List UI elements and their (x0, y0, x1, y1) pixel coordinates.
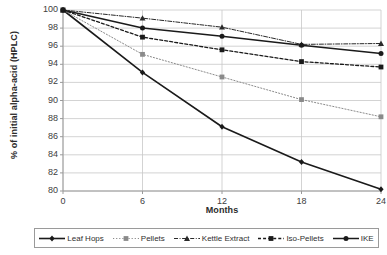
y-tick-label: 80 (32, 185, 58, 195)
x-tick-label: 0 (48, 196, 78, 206)
data-point (379, 65, 384, 70)
y-tick-label: 94 (32, 58, 58, 68)
x-axis-title: Months (63, 205, 381, 215)
legend-marker-triangle-icon (174, 233, 200, 244)
data-point (299, 43, 304, 48)
data-point (379, 51, 384, 56)
data-point (220, 47, 225, 52)
legend-label: Iso-Pellets (286, 234, 323, 243)
x-tick-label: 6 (128, 196, 158, 206)
legend-item-ike[interactable]: IKE (333, 233, 374, 244)
y-tick-label: 84 (32, 149, 58, 159)
legend-label: Pellets (141, 234, 165, 243)
data-point (220, 34, 225, 39)
chart-plot-area (0, 0, 387, 255)
data-point (140, 52, 145, 57)
y-tick-label: 86 (32, 131, 58, 141)
data-point (299, 159, 304, 165)
y-tick-label: 92 (32, 76, 58, 86)
x-tick-label: 18 (287, 196, 317, 206)
y-tick-label: 90 (32, 95, 58, 105)
legend-item-kettle-extract[interactable]: Kettle Extract (174, 233, 250, 244)
legend-item-leaf-hops[interactable]: Leaf Hops (39, 233, 103, 244)
data-point (140, 26, 145, 31)
legend-label: IKE (361, 234, 374, 243)
data-point (299, 59, 304, 64)
data-point (220, 75, 225, 80)
y-tick-label: 100 (32, 4, 58, 14)
data-point (299, 97, 304, 102)
x-tick-label: 12 (207, 196, 237, 206)
legend-label: Leaf Hops (67, 234, 103, 243)
legend-item-iso-pellets[interactable]: Iso-Pellets (258, 233, 323, 244)
y-axis-title: % of initial alpha-acid (HPLC) (9, 10, 19, 180)
legend-label: Kettle Extract (202, 234, 250, 243)
y-tick-label: 96 (32, 40, 58, 50)
legend-item-pellets[interactable]: Pellets (113, 233, 165, 244)
data-point (379, 114, 384, 119)
x-tick-label: 24 (366, 196, 387, 206)
data-point (140, 15, 146, 20)
y-tick-label: 82 (32, 167, 58, 177)
legend-marker-circle-icon (333, 233, 359, 244)
data-point (61, 8, 66, 13)
legend-marker-square-icon (258, 233, 284, 244)
legend-marker-diamond-icon (39, 233, 65, 244)
data-point (140, 35, 145, 40)
chart-container: % of initial alpha-acid (HPLC) Months 80… (0, 0, 387, 255)
y-tick-label: 88 (32, 113, 58, 123)
y-tick-label: 98 (32, 22, 58, 32)
chart-legend: Leaf HopsPelletsKettle ExtractIso-Pellet… (34, 228, 379, 248)
legend-marker-square-icon (113, 233, 139, 244)
